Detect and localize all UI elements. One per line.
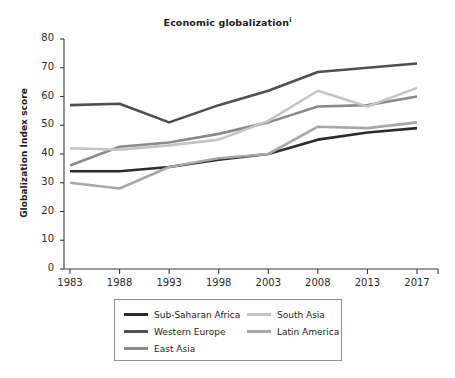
legend-item-western-europe[interactable]: Western Europe xyxy=(124,323,240,340)
legend-label: East Asia xyxy=(154,344,195,354)
x-tick-label: 1998 xyxy=(194,277,244,288)
legend-swatch-icon xyxy=(247,313,271,316)
legend-label: Sub-Saharan Africa xyxy=(154,310,240,320)
y-tick-label: 0 xyxy=(26,262,54,273)
x-tick-label: 2003 xyxy=(243,277,293,288)
y-tick-label: 80 xyxy=(26,32,54,43)
y-tick-label: 60 xyxy=(26,90,54,101)
legend-item-south-asia[interactable]: South Asia xyxy=(247,306,339,323)
legend-item-sub-saharan-africa[interactable]: Sub-Saharan Africa xyxy=(124,306,240,323)
x-tick-label: 2017 xyxy=(392,277,442,288)
economic-globalization-chart: Economic globalizationi Globalization In… xyxy=(0,0,455,378)
x-tick-label: 1993 xyxy=(144,277,194,288)
y-tick-label: 30 xyxy=(26,176,54,187)
x-tick-label: 1983 xyxy=(45,277,95,288)
x-tick-label: 1988 xyxy=(95,277,145,288)
legend-label: Western Europe xyxy=(154,327,225,337)
legend-label: Latin America xyxy=(277,327,339,337)
x-tick-label: 2013 xyxy=(342,277,392,288)
y-tick-label: 70 xyxy=(26,61,54,72)
legend-column-left: Sub-Saharan AfricaWestern EuropeEast Asi… xyxy=(124,306,240,357)
series-lines xyxy=(70,63,417,188)
legend-item-latin-america[interactable]: Latin America xyxy=(247,323,339,340)
y-tick-label: 40 xyxy=(26,147,54,158)
x-tick-label: 2008 xyxy=(293,277,343,288)
chart-legend: Sub-Saharan AfricaWestern EuropeEast Asi… xyxy=(114,299,342,361)
legend-label: South Asia xyxy=(277,310,325,320)
legend-item-east-asia[interactable]: East Asia xyxy=(124,340,240,357)
legend-swatch-icon xyxy=(124,313,148,316)
legend-swatch-icon xyxy=(124,347,148,350)
legend-swatch-icon xyxy=(247,330,271,333)
legend-swatch-icon xyxy=(124,330,148,333)
legend-column-right: South AsiaLatin America xyxy=(247,306,339,340)
y-tick-label: 10 xyxy=(26,233,54,244)
y-tick-label: 50 xyxy=(26,118,54,129)
y-tick-label: 20 xyxy=(26,205,54,216)
series-line-western-europe xyxy=(70,63,417,122)
